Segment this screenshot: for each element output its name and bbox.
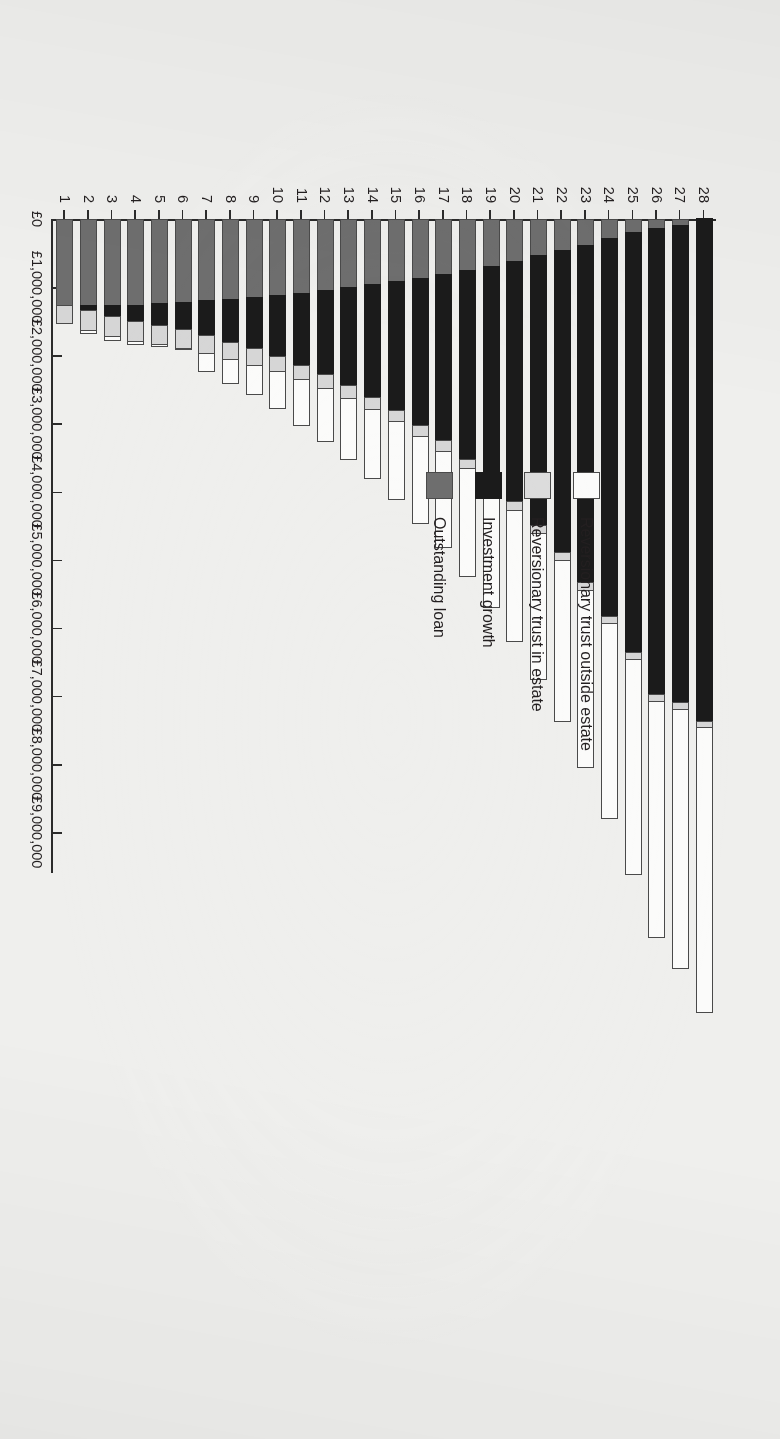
bar-segment-outest[interactable] bbox=[269, 371, 286, 409]
bar-segment-outest[interactable] bbox=[388, 421, 405, 499]
bar-stack[interactable] bbox=[104, 219, 121, 341]
bar-segment-loan[interactable] bbox=[127, 219, 144, 306]
bar-segment-growth[interactable] bbox=[412, 278, 429, 426]
bar-segment-loan[interactable] bbox=[459, 219, 476, 271]
bar-segment-outest[interactable] bbox=[625, 659, 642, 876]
bar-segment-inest[interactable] bbox=[340, 385, 357, 399]
bar-segment-outest[interactable] bbox=[151, 344, 168, 347]
bar-segment-loan[interactable] bbox=[293, 219, 310, 294]
bar-segment-inest[interactable] bbox=[198, 335, 215, 354]
bar-segment-growth[interactable] bbox=[483, 266, 500, 480]
bar-segment-growth[interactable] bbox=[198, 300, 215, 335]
bar-segment-growth[interactable] bbox=[293, 293, 310, 366]
bar-segment-growth[interactable] bbox=[672, 225, 689, 703]
bar-segment-growth[interactable] bbox=[340, 287, 357, 385]
bar-stack[interactable] bbox=[80, 219, 97, 334]
bar-segment-inest[interactable] bbox=[151, 325, 168, 345]
bar-segment-loan[interactable] bbox=[412, 219, 429, 279]
bar-segment-outest[interactable] bbox=[340, 398, 357, 460]
bar-stack[interactable] bbox=[246, 219, 263, 395]
bar-segment-inest[interactable] bbox=[127, 321, 144, 342]
bar-segment-loan[interactable] bbox=[388, 219, 405, 282]
bar-segment-growth[interactable] bbox=[601, 238, 618, 616]
bar-stack[interactable] bbox=[696, 219, 713, 1013]
legend-item[interactable]: Reversionary trust in estate bbox=[524, 472, 551, 751]
bar-segment-loan[interactable] bbox=[56, 219, 73, 306]
bar-stack[interactable] bbox=[222, 219, 239, 384]
bar-segment-outest[interactable] bbox=[80, 330, 97, 334]
bar-segment-growth[interactable] bbox=[625, 232, 642, 652]
bar-stack[interactable] bbox=[269, 219, 286, 409]
bar-segment-loan[interactable] bbox=[198, 219, 215, 301]
bar-stack[interactable] bbox=[625, 219, 642, 875]
bar-segment-loan[interactable] bbox=[269, 219, 286, 296]
bar-segment-growth[interactable] bbox=[696, 218, 713, 722]
bar-segment-outest[interactable] bbox=[364, 409, 381, 479]
bar-segment-outest[interactable] bbox=[648, 701, 665, 939]
bar-segment-outest[interactable] bbox=[198, 353, 215, 373]
bar-stack[interactable] bbox=[388, 219, 405, 500]
bar-segment-loan[interactable] bbox=[506, 219, 523, 262]
bar-segment-loan[interactable] bbox=[175, 219, 192, 303]
bar-segment-outest[interactable] bbox=[317, 388, 334, 442]
bar-segment-loan[interactable] bbox=[340, 219, 357, 288]
bar-segment-inest[interactable] bbox=[175, 329, 192, 349]
bar-segment-loan[interactable] bbox=[151, 219, 168, 304]
bar-segment-inest[interactable] bbox=[269, 356, 286, 372]
bar-stack[interactable] bbox=[364, 219, 381, 479]
bar-segment-growth[interactable] bbox=[222, 299, 239, 343]
bar-segment-growth[interactable] bbox=[175, 302, 192, 331]
legend-item[interactable]: Outstanding loan bbox=[426, 472, 453, 751]
bar-segment-inest[interactable] bbox=[364, 397, 381, 410]
bar-segment-loan[interactable] bbox=[483, 219, 500, 267]
bar-segment-outest[interactable] bbox=[175, 348, 192, 350]
bar-segment-loan[interactable] bbox=[530, 219, 547, 256]
bar-segment-loan[interactable] bbox=[80, 219, 97, 306]
bar-segment-inest[interactable] bbox=[293, 365, 310, 381]
bar-segment-outest[interactable] bbox=[104, 336, 121, 341]
bar-segment-growth[interactable] bbox=[317, 290, 334, 375]
bar-stack[interactable] bbox=[151, 219, 168, 347]
bar-segment-outest[interactable] bbox=[246, 365, 263, 396]
bar-stack[interactable] bbox=[672, 219, 689, 969]
bar-segment-growth[interactable] bbox=[388, 281, 405, 410]
bar-stack[interactable] bbox=[56, 219, 73, 324]
bar-segment-inest[interactable] bbox=[56, 305, 73, 324]
bar-segment-growth[interactable] bbox=[269, 295, 286, 357]
bar-segment-outest[interactable] bbox=[222, 359, 239, 384]
bar-stack[interactable] bbox=[601, 219, 618, 819]
bar-segment-growth[interactable] bbox=[364, 284, 381, 397]
bar-segment-loan[interactable] bbox=[104, 219, 121, 306]
legend-item[interactable]: Investment growth bbox=[475, 472, 502, 751]
bar-segment-loan[interactable] bbox=[435, 219, 452, 275]
bar-segment-outest[interactable] bbox=[127, 341, 144, 345]
bar-segment-growth[interactable] bbox=[246, 297, 263, 349]
bar-stack[interactable] bbox=[648, 219, 665, 938]
bar-segment-outest[interactable] bbox=[696, 727, 713, 1013]
bar-segment-loan[interactable] bbox=[246, 219, 263, 298]
bar-segment-growth[interactable] bbox=[151, 303, 168, 325]
bar-segment-outest[interactable] bbox=[601, 623, 618, 819]
bar-stack[interactable] bbox=[293, 219, 310, 426]
bar-segment-growth[interactable] bbox=[435, 274, 452, 442]
bar-stack[interactable] bbox=[317, 219, 334, 442]
bar-segment-loan[interactable] bbox=[601, 219, 618, 239]
bar-segment-loan[interactable] bbox=[317, 219, 334, 291]
legend-item[interactable]: Reversionary trust outside estate bbox=[573, 472, 600, 751]
bar-segment-inest[interactable] bbox=[317, 374, 334, 389]
bar-segment-outest[interactable] bbox=[672, 709, 689, 970]
bar-stack[interactable] bbox=[127, 219, 144, 345]
bar-segment-loan[interactable] bbox=[577, 219, 594, 246]
bar-segment-inest[interactable] bbox=[222, 342, 239, 360]
bar-segment-inest[interactable] bbox=[246, 348, 263, 365]
bar-segment-growth[interactable] bbox=[127, 305, 144, 322]
bar-segment-loan[interactable] bbox=[625, 219, 642, 233]
bar-stack[interactable] bbox=[198, 219, 215, 372]
bar-segment-outest[interactable] bbox=[293, 379, 310, 425]
bar-segment-growth[interactable] bbox=[648, 228, 665, 695]
bar-segment-loan[interactable] bbox=[554, 219, 571, 251]
bar-segment-inest[interactable] bbox=[104, 316, 121, 337]
bar-segment-growth[interactable] bbox=[506, 261, 523, 502]
bar-segment-inest[interactable] bbox=[80, 310, 97, 331]
bar-stack[interactable] bbox=[175, 219, 192, 350]
